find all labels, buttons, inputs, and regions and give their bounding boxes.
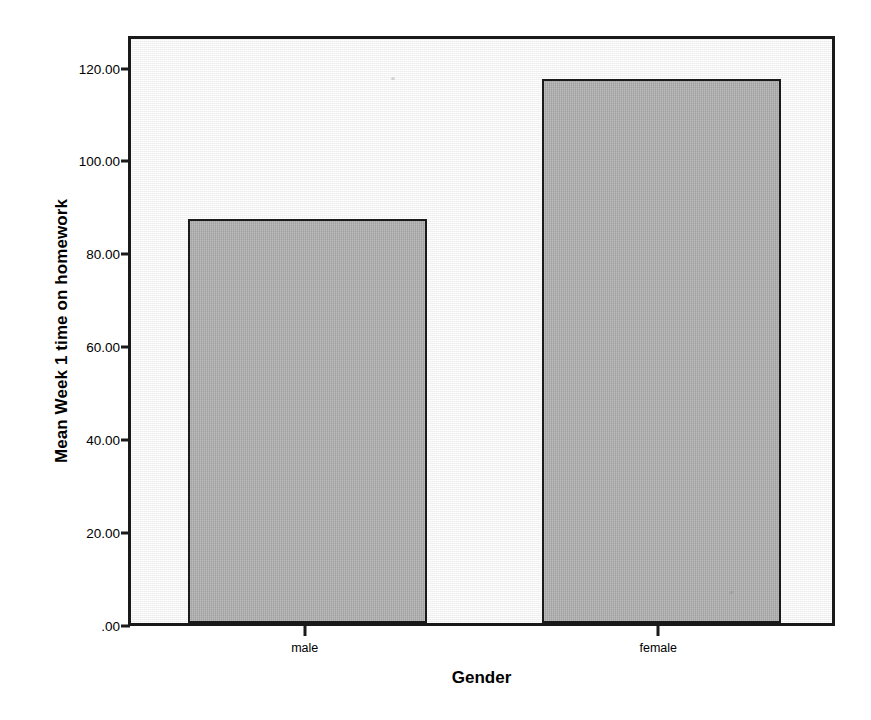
y-tick-label: 80.00 [10, 247, 120, 262]
x-tick-label-female: female [639, 641, 677, 655]
y-tick-label: 100.00 [10, 154, 120, 169]
bar-male[interactable] [188, 219, 427, 623]
y-tick-label: 60.00 [10, 340, 120, 355]
scan-speckle [391, 77, 395, 80]
plot-area [128, 36, 835, 626]
x-tick-mark [657, 626, 660, 636]
y-tick-label: 40.00 [10, 433, 120, 448]
x-tick-label-male: male [291, 641, 318, 655]
plot-inner [131, 39, 832, 623]
bar-female[interactable] [542, 79, 781, 623]
y-tick-label: 120.00 [10, 61, 120, 76]
x-axis-title: Gender [0, 668, 871, 688]
x-axis-title-text: Gender [452, 668, 512, 687]
bar-chart: Mean Week 1 time on homework .00 20.00 4… [0, 0, 871, 720]
y-axis-ticks: .00 20.00 40.00 60.00 80.00 100.00 120.0… [0, 0, 120, 720]
x-tick-mark [303, 626, 306, 636]
y-tick-label: 20.00 [10, 526, 120, 541]
y-tick-label: .00 [10, 619, 120, 634]
